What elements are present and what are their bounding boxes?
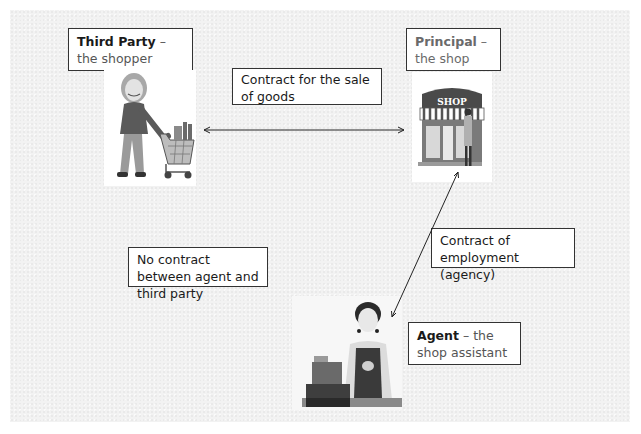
shopper-with-trolley-icon [104, 70, 196, 186]
agent-label: Agent – the shop assistant [408, 322, 521, 365]
principal-title: Principal [415, 34, 477, 49]
no-contract-label: No contract between agent and third part… [128, 247, 268, 287]
agent-title: Agent [417, 328, 459, 343]
shop-image: SHOP [412, 72, 492, 182]
shopper-image [104, 70, 196, 186]
third-party-title: Third Party [77, 34, 156, 49]
shop-assistant-icon [292, 296, 402, 410]
shop-front-icon: SHOP [412, 72, 492, 182]
shop-sign-text: SHOP [437, 97, 467, 107]
employment-contract-label: Contract of employment (agency) [431, 228, 575, 268]
shop-assistant-image [292, 296, 402, 410]
sale-of-goods-label: Contract for the sale of goods [232, 68, 382, 105]
sale-of-goods-text: Contract for the sale of goods [241, 72, 370, 104]
principal-label: Principal – the shop owner [406, 28, 501, 71]
third-party-label: Third Party – the shopper [68, 28, 193, 71]
